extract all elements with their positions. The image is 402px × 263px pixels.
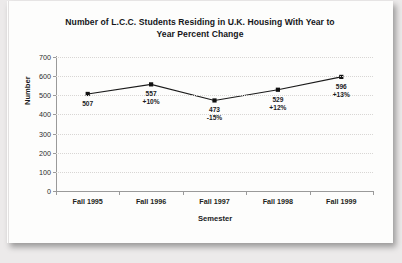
x-tick-label: Fall 1995 (73, 197, 103, 206)
gridline (56, 57, 373, 59)
x-tick-label: Fall 1996 (136, 197, 166, 206)
x-tick-label: Fall 1998 (263, 197, 293, 206)
y-tick-mark (53, 114, 56, 115)
x-tick-label: Fall 1997 (199, 197, 229, 206)
chart-figure: Number of L.C.C. Students Residing in U.… (7, 1, 393, 243)
data-label-value: 473 (207, 106, 222, 114)
y-tick-label: 300 (39, 129, 51, 138)
data-point-label: 596+13% (333, 83, 350, 99)
y-tick-label: 700 (39, 53, 51, 62)
y-tick-label: 0 (47, 187, 51, 196)
y-tick-mark (53, 134, 56, 135)
y-tick-label: 200 (39, 148, 51, 157)
x-tick-mark (373, 191, 374, 195)
data-label-change: +13% (333, 91, 350, 99)
data-label-value: 529 (269, 96, 286, 104)
y-tick-label: 100 (39, 167, 51, 176)
x-tick-label: Fall 1999 (326, 197, 356, 206)
x-tick-mark (183, 191, 184, 195)
y-tick-mark (53, 153, 56, 154)
chart-title: Number of L.C.C. Students Residing in U.… (25, 17, 375, 40)
data-point-label: 507 (82, 100, 93, 108)
x-axis-title: Semester (56, 214, 374, 223)
x-axis-line (56, 191, 374, 192)
y-tick-mark (53, 57, 56, 58)
y-tick-label: 500 (39, 91, 51, 100)
y-tick-label: 400 (39, 110, 51, 119)
gridline (56, 76, 373, 78)
data-label-change: +10% (143, 98, 160, 106)
y-tick-mark (53, 76, 56, 77)
y-tick-mark (53, 172, 56, 173)
y-tick-label: 600 (39, 72, 51, 81)
chart-title-line-2: Year Percent Change (157, 29, 244, 39)
data-point-marker (149, 82, 153, 86)
x-tick-mark (56, 191, 57, 195)
y-tick-mark (53, 95, 56, 96)
x-tick-mark (119, 191, 120, 195)
gridline (56, 95, 373, 97)
data-point-label: 529+12% (269, 96, 286, 112)
data-point-label: 557+10% (143, 90, 160, 106)
gridline (56, 172, 373, 174)
data-label-change: +12% (269, 104, 286, 112)
plot-area: 7006005004003002001000 (56, 57, 373, 191)
scanned-page-card: Number of L.C.C. Students Residing in U.… (7, 1, 393, 243)
data-point-marker (276, 88, 280, 92)
data-label-value: 596 (333, 83, 350, 91)
chart-title-line-1: Number of L.C.C. Students Residing in U.… (65, 17, 334, 27)
data-point-marker (212, 98, 216, 102)
data-label-change: -15% (207, 114, 222, 122)
x-tick-mark (310, 191, 311, 195)
x-tick-mark (246, 191, 247, 195)
data-label-value: 507 (82, 100, 93, 108)
y-axis-title: Number (23, 76, 32, 105)
data-point-label: 473-15% (207, 106, 222, 122)
gridline (56, 153, 373, 155)
gridline (56, 134, 373, 136)
data-label-value: 557 (143, 90, 160, 98)
